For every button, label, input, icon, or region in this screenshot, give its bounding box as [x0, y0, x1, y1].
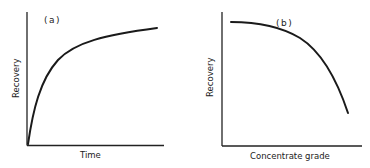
panel-a: (a) Time Recovery	[11, 12, 164, 160]
panel-a-label: (a)	[44, 15, 61, 25]
panel-b-curve	[231, 22, 348, 113]
panel-a-xlabel: Time	[79, 150, 101, 160]
panel-b-xlabel: Concentrate grade	[250, 151, 330, 161]
panel-b-label: (b)	[276, 18, 293, 28]
panel-a-curve	[28, 28, 157, 144]
panel-b-ylabel: Recovery	[205, 58, 215, 97]
figure: (a) Time Recovery (b) Concentrate grade …	[0, 0, 370, 168]
panel-a-ylabel: Recovery	[11, 59, 21, 98]
panel-b: (b) Concentrate grade Recovery	[205, 12, 362, 161]
